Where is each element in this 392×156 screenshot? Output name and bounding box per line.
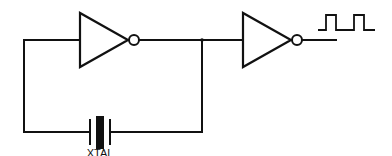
crystal-label: XTAL — [87, 147, 114, 156]
square-wave-icon — [318, 15, 375, 30]
crystal-icon — [90, 116, 110, 149]
inverter-2-bubble-icon — [292, 35, 302, 45]
inverter-1-bubble-icon — [129, 35, 139, 45]
oscillator-schematic: XTAL — [0, 0, 392, 156]
junction-dot-icon — [200, 38, 204, 42]
crystal-to-junction-wire — [110, 40, 202, 132]
inverter-1-icon — [80, 13, 128, 67]
inverter-2-icon — [243, 13, 291, 67]
